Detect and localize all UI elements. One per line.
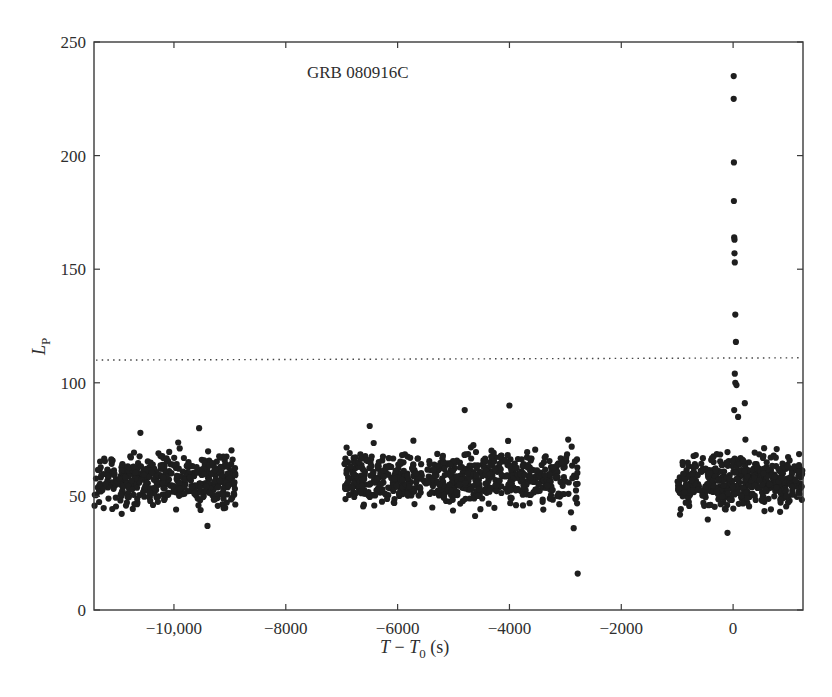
data-point — [698, 461, 704, 467]
data-point — [783, 503, 789, 509]
data-point — [731, 250, 737, 256]
data-point — [556, 501, 562, 507]
data-point — [371, 440, 377, 446]
data-point — [159, 463, 165, 469]
data-point — [434, 451, 440, 457]
data-point — [165, 492, 171, 498]
data-point — [789, 483, 795, 489]
data-point — [97, 458, 103, 464]
data-point — [542, 454, 548, 460]
data-point — [740, 500, 746, 506]
data-point — [104, 467, 110, 473]
data-point — [123, 503, 129, 509]
data-point — [676, 485, 682, 491]
data-point — [177, 486, 183, 492]
data-point — [441, 459, 447, 465]
data-point — [360, 476, 366, 482]
data-point — [486, 501, 492, 507]
data-point — [367, 482, 373, 488]
data-point — [534, 467, 540, 473]
y-tick-label: 250 — [61, 33, 87, 52]
data-point — [574, 470, 580, 476]
data-point — [232, 501, 238, 507]
data-point — [477, 506, 483, 512]
x-tick-label: −2000 — [599, 619, 643, 638]
data-point — [370, 469, 376, 475]
data-point — [483, 481, 489, 487]
data-point — [732, 312, 738, 318]
data-point — [527, 500, 533, 506]
data-point — [505, 438, 511, 444]
data-point — [730, 457, 736, 463]
data-point — [129, 487, 135, 493]
data-point — [170, 483, 176, 489]
data-point — [542, 467, 548, 473]
data-point — [551, 464, 557, 470]
data-point — [165, 458, 171, 464]
data-point — [507, 463, 513, 469]
data-point — [761, 508, 767, 514]
data-point — [700, 455, 706, 461]
data-point — [358, 456, 364, 462]
data-point — [418, 461, 424, 467]
data-point — [569, 475, 575, 481]
data-point — [540, 496, 546, 502]
data-point — [147, 490, 153, 496]
data-point — [392, 476, 398, 482]
data-point — [474, 465, 480, 471]
data-point — [379, 486, 385, 492]
data-point — [209, 460, 215, 466]
data-point — [385, 484, 391, 490]
data-point — [519, 456, 525, 462]
data-point — [534, 486, 540, 492]
data-point — [173, 506, 179, 512]
y-axis-ticks: 050100150200250 — [61, 33, 804, 620]
data-point — [759, 497, 765, 503]
data-point — [730, 484, 736, 490]
data-point — [227, 475, 233, 481]
data-point — [399, 477, 405, 483]
data-point — [465, 470, 471, 476]
grb-annotation-label: GRB 080916C — [307, 63, 409, 82]
data-point — [756, 477, 762, 483]
data-point — [118, 491, 124, 497]
data-point — [799, 484, 805, 490]
data-point — [429, 489, 435, 495]
data-point — [520, 502, 526, 508]
data-point — [488, 448, 494, 454]
x-tick-label: −10,000 — [146, 619, 202, 638]
data-point — [699, 493, 705, 499]
data-point — [678, 506, 684, 512]
data-point — [221, 505, 227, 511]
y-tick-label: 0 — [78, 601, 87, 620]
threshold-dotted-line — [96, 358, 801, 360]
data-point — [544, 482, 550, 488]
data-point — [731, 237, 737, 243]
data-point — [368, 463, 374, 469]
data-point — [194, 470, 200, 476]
data-point — [705, 516, 711, 522]
data-point — [404, 472, 410, 478]
data-point — [768, 506, 774, 512]
data-point — [397, 459, 403, 465]
data-point — [141, 471, 147, 477]
data-point — [763, 487, 769, 493]
data-point — [559, 459, 565, 465]
data-point — [695, 487, 701, 493]
data-point — [150, 462, 156, 468]
data-point — [344, 444, 350, 450]
data-point — [149, 469, 155, 475]
data-point — [206, 490, 212, 496]
data-point — [217, 478, 223, 484]
data-point — [473, 473, 479, 479]
data-point — [170, 462, 176, 468]
data-point — [724, 449, 730, 455]
y-tick-label: 50 — [69, 487, 86, 506]
data-point — [565, 437, 571, 443]
data-point — [394, 483, 400, 489]
data-point — [155, 499, 161, 505]
data-point — [205, 448, 211, 454]
data-point — [732, 470, 738, 476]
data-point — [204, 523, 210, 529]
data-point — [540, 507, 546, 513]
